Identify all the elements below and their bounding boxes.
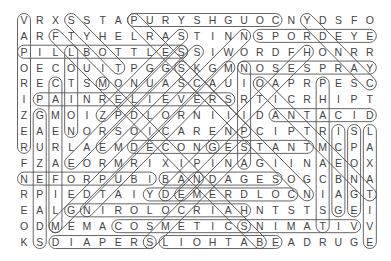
grid-letter[interactable]: T xyxy=(363,187,377,201)
grid-letter[interactable]: P xyxy=(111,108,125,122)
grid-letter[interactable]: L xyxy=(253,187,267,201)
grid-letter[interactable]: O xyxy=(237,45,251,59)
grid-letter[interactable]: O xyxy=(158,203,172,217)
grid-letter[interactable]: E xyxy=(17,124,31,138)
grid-letter[interactable]: E xyxy=(269,235,283,249)
grid-letter[interactable]: E xyxy=(111,92,125,106)
grid-letter[interactable]: A xyxy=(33,203,47,217)
grid-letter[interactable]: T xyxy=(253,140,267,154)
grid-letter[interactable]: N xyxy=(300,187,314,201)
grid-letter[interactable]: T xyxy=(111,45,125,59)
grid-letter[interactable]: U xyxy=(33,140,47,154)
grid-letter[interactable]: I xyxy=(206,203,220,217)
grid-letter[interactable]: E xyxy=(64,187,78,201)
grid-letter[interactable]: N xyxy=(64,124,78,138)
grid-letter[interactable]: R xyxy=(174,108,188,122)
grid-letter[interactable]: I xyxy=(331,219,345,233)
grid-letter[interactable]: X xyxy=(158,156,172,170)
grid-letter[interactable]: D xyxy=(33,219,47,233)
grid-letter[interactable]: M xyxy=(111,156,125,170)
grid-letter[interactable]: R xyxy=(190,203,204,217)
grid-letter[interactable]: R xyxy=(17,76,31,90)
grid-letter[interactable]: S xyxy=(347,76,361,90)
grid-letter[interactable]: E xyxy=(206,124,220,138)
grid-letter[interactable]: R xyxy=(300,29,314,43)
grid-letter[interactable]: C xyxy=(158,124,172,138)
grid-letter[interactable]: P xyxy=(127,61,141,75)
grid-letter[interactable]: N xyxy=(17,172,31,186)
grid-letter[interactable]: L xyxy=(48,45,62,59)
grid-letter[interactable]: E xyxy=(331,156,345,170)
grid-letter[interactable]: L xyxy=(64,140,78,154)
grid-letter[interactable]: V xyxy=(363,219,377,233)
grid-letter[interactable]: S xyxy=(316,203,330,217)
grid-letter[interactable]: P xyxy=(33,187,47,201)
grid-letter[interactable]: P xyxy=(127,13,141,27)
grid-letter[interactable]: I xyxy=(96,61,110,75)
grid-letter[interactable]: C xyxy=(158,140,172,154)
grid-letter[interactable]: F xyxy=(284,45,298,59)
grid-letter[interactable]: V xyxy=(17,13,31,27)
grid-letter[interactable]: E xyxy=(158,92,172,106)
grid-letter[interactable]: B xyxy=(331,172,345,186)
grid-letter[interactable]: P xyxy=(17,45,31,59)
grid-letter[interactable]: D xyxy=(237,187,251,201)
grid-letter[interactable]: A xyxy=(316,108,330,122)
grid-letter[interactable]: I xyxy=(316,187,330,201)
grid-letter[interactable]: A xyxy=(111,13,125,27)
grid-letter[interactable]: T xyxy=(300,108,314,122)
grid-letter[interactable]: N xyxy=(237,29,251,43)
grid-letter[interactable]: N xyxy=(190,108,204,122)
grid-letter[interactable]: D xyxy=(269,45,283,59)
grid-letter[interactable]: R xyxy=(300,92,314,106)
grid-letter[interactable]: U xyxy=(237,13,251,27)
grid-letter[interactable]: A xyxy=(363,140,377,154)
grid-letter[interactable]: O xyxy=(127,219,141,233)
grid-letter[interactable]: O xyxy=(284,29,298,43)
grid-letter[interactable]: E xyxy=(33,61,47,75)
grid-letter[interactable]: O xyxy=(17,61,31,75)
grid-letter[interactable]: G xyxy=(347,235,361,249)
grid-letter[interactable]: R xyxy=(33,29,47,43)
grid-letter[interactable]: S xyxy=(174,45,188,59)
grid-letter[interactable]: D xyxy=(127,140,141,154)
grid-letter[interactable]: R xyxy=(80,172,94,186)
grid-letter[interactable]: I xyxy=(237,108,251,122)
grid-letter[interactable]: T xyxy=(190,29,204,43)
grid-letter[interactable]: R xyxy=(363,45,377,59)
grid-letter[interactable]: A xyxy=(269,140,283,154)
grid-letter[interactable]: I xyxy=(237,76,251,90)
grid-letter[interactable]: T xyxy=(300,203,314,217)
grid-letter[interactable]: P xyxy=(284,76,298,90)
grid-letter[interactable]: S xyxy=(64,13,78,27)
grid-letter[interactable]: R xyxy=(96,124,110,138)
grid-letter[interactable]: R xyxy=(316,124,330,138)
grid-letter[interactable]: S xyxy=(111,124,125,138)
grid-letter[interactable]: O xyxy=(284,172,298,186)
grid-letter[interactable]: A xyxy=(174,172,188,186)
grid-letter[interactable]: T xyxy=(363,92,377,106)
grid-letter[interactable]: X xyxy=(48,13,62,27)
grid-letter[interactable]: E xyxy=(33,76,47,90)
grid-letter[interactable]: G xyxy=(206,140,220,154)
grid-letter[interactable]: I xyxy=(206,29,220,43)
grid-letter[interactable]: N xyxy=(221,156,235,170)
grid-letter[interactable]: R xyxy=(48,140,62,154)
grid-letter[interactable]: U xyxy=(80,61,94,75)
grid-letter[interactable]: M xyxy=(111,140,125,154)
grid-letter[interactable]: S xyxy=(143,235,157,249)
grid-letter[interactable]: I xyxy=(206,108,220,122)
grid-letter[interactable]: I xyxy=(33,45,47,59)
grid-letter[interactable]: T xyxy=(96,13,110,27)
grid-letter[interactable]: P xyxy=(316,61,330,75)
grid-letter[interactable]: D xyxy=(158,187,172,201)
grid-letter[interactable]: N xyxy=(284,108,298,122)
grid-letter[interactable]: O xyxy=(111,76,125,90)
grid-letter[interactable]: G xyxy=(331,203,345,217)
grid-letter[interactable]: A xyxy=(206,76,220,90)
grid-letter[interactable]: D xyxy=(316,13,330,27)
grid-letter[interactable]: I xyxy=(96,203,110,217)
grid-letter[interactable]: I xyxy=(206,219,220,233)
grid-letter[interactable]: M xyxy=(190,187,204,201)
grid-letter[interactable]: I xyxy=(143,92,157,106)
